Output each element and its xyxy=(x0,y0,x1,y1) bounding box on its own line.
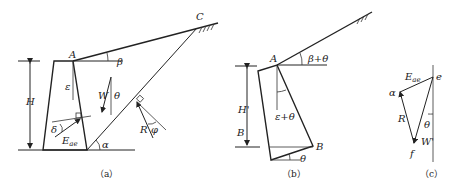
wall-normal xyxy=(52,116,91,122)
alpha-arc xyxy=(96,140,100,150)
label-r: R xyxy=(139,124,148,135)
seismic-earth-pressure-figure: A C β H ε W θ δ Eae α R φ （a） A β+θ H' xyxy=(0,0,455,192)
panel-a: A C β H ε W θ δ Eae α R φ （a） xyxy=(18,11,218,179)
label-e: e xyxy=(436,71,442,82)
label-eps-theta: ε+θ xyxy=(275,111,295,122)
label-beta: β xyxy=(116,56,123,67)
label-beta-theta: β+θ xyxy=(307,53,328,64)
label-e-ae-c: Eae xyxy=(404,71,421,84)
label-e-ae: Eae xyxy=(61,135,78,148)
label-theta: θ xyxy=(114,90,120,101)
panel-b: A β+θ H' B ε+θ B θ （b） xyxy=(235,12,372,179)
label-a: A xyxy=(68,49,76,60)
label-w-prime: W' xyxy=(421,136,434,147)
eps-theta-arc xyxy=(277,90,286,92)
label-delta: δ xyxy=(51,124,57,135)
label-a-b: A xyxy=(269,53,277,64)
label-w: W xyxy=(98,90,109,101)
right-angle-mark-slip xyxy=(137,95,144,102)
label-h-prime: H' xyxy=(237,104,249,115)
label-phi: φ xyxy=(151,124,158,135)
beta-arc xyxy=(107,53,108,61)
caption-c: （c） xyxy=(420,169,443,179)
label-alpha-c: α xyxy=(389,87,396,98)
delta-arc xyxy=(60,124,62,132)
label-c: C xyxy=(196,11,204,22)
theta-arc-b xyxy=(289,154,290,160)
figure-canvas: A C β H ε W θ δ Eae α R φ （a） A β+θ H' xyxy=(0,0,455,192)
beta-theta-arc xyxy=(300,53,302,65)
label-epsilon: ε xyxy=(65,81,70,92)
label-r-c: R xyxy=(397,113,406,124)
label-alpha: α xyxy=(102,139,109,150)
label-b: B xyxy=(315,141,323,152)
label-f: f xyxy=(409,148,416,159)
panel-c: Eae e α R θ W' f （c） xyxy=(389,65,443,179)
caption-b: （b） xyxy=(282,169,306,179)
label-theta-b: θ xyxy=(300,153,306,164)
caption-a: （a） xyxy=(95,169,118,179)
label-theta-c: θ xyxy=(424,119,430,130)
label-h: H xyxy=(25,96,35,107)
label-b-left: B xyxy=(236,127,244,138)
w-prime-vector xyxy=(414,77,433,143)
